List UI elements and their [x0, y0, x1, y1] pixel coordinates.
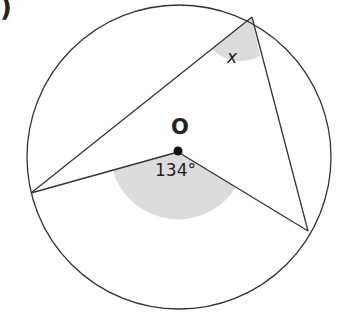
center-point: [174, 147, 183, 156]
central-angle-label: 134°: [155, 160, 196, 180]
chord-top-right: [252, 17, 308, 231]
inscribed-angle-label: x: [227, 47, 237, 67]
center-label: O: [171, 115, 189, 139]
